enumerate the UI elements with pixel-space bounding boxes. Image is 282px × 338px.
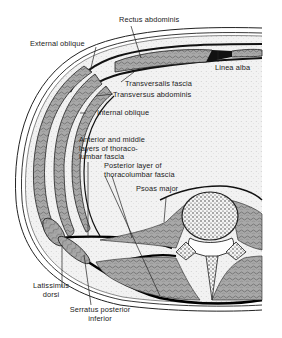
label-latissimus-dorsi: Latissimus dorsi bbox=[31, 282, 71, 299]
label-linea-alba: Linea alba bbox=[215, 64, 250, 73]
label-internal-oblique: Internal oblique bbox=[97, 109, 149, 118]
label-external-oblique: External oblique bbox=[30, 40, 85, 49]
label-transversus-abdominis: Transversus abdominis bbox=[113, 91, 191, 100]
label-posterior-layer: Posterior layer of thoracolumbar fascia bbox=[104, 162, 175, 179]
label-anterior-middle-layers: Anterior and middle layers of thoraco- l… bbox=[79, 136, 145, 162]
label-transversalis-fascia: Transversalis fascia bbox=[125, 80, 192, 89]
vertebral-body bbox=[182, 192, 238, 240]
label-serratus-posterior-inferior: Serratus posterior inferior bbox=[60, 306, 140, 323]
abdominal-wall-cross-section: Rectus abdominis External oblique Linea … bbox=[0, 0, 282, 338]
label-psoas-major: Psoas major bbox=[136, 185, 178, 194]
label-rectus-abdominis: Rectus abdominis bbox=[119, 16, 179, 25]
